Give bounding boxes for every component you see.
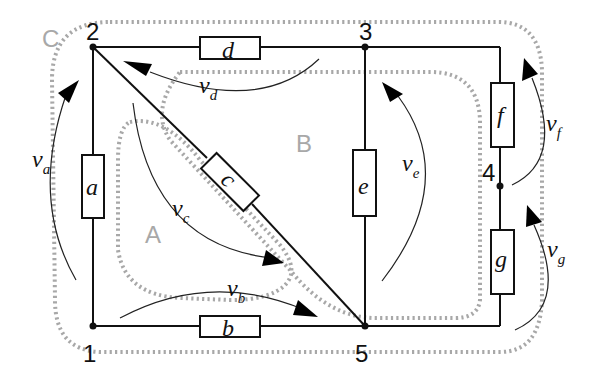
arrowhead-b-icon: [293, 300, 318, 317]
voltage-arrow-a: va: [32, 80, 79, 280]
voltage-arrow-e: ve: [382, 82, 425, 281]
loop-a-label: A: [145, 221, 161, 248]
node-1-label: 1: [83, 340, 96, 367]
arrowhead-f-icon: [522, 58, 538, 81]
voltage-g-symbol: v: [547, 236, 558, 262]
voltage-c-sub: c: [183, 210, 190, 226]
voltage-b-symbol: v: [227, 275, 238, 301]
node-1-dot: [90, 323, 97, 330]
node-4-dot: [497, 183, 504, 190]
node-3-label: 3: [359, 18, 372, 45]
loop-c-label: C: [42, 25, 59, 52]
voltage-d-symbol: v: [199, 72, 210, 98]
arrowhead-g-icon: [526, 205, 542, 227]
circuit-diagram: a b c d e f g 1 2 3 4 5 A B C va: [0, 0, 600, 389]
svg-text:va: va: [32, 146, 50, 177]
resistor-a-label: a: [86, 174, 98, 200]
voltage-e-symbol: v: [402, 150, 413, 176]
voltage-arrow-f: vf: [512, 58, 563, 185]
resistor-f: f: [491, 83, 514, 147]
resistor-b-label: b: [222, 315, 234, 341]
voltage-f-sub: f: [557, 125, 563, 141]
voltage-f-symbol: v: [546, 110, 557, 136]
voltage-c-symbol: v: [172, 195, 183, 221]
wires: [93, 47, 500, 326]
voltage-d-sub: d: [210, 87, 218, 103]
svg-text:vd: vd: [199, 72, 218, 103]
voltage-a-symbol: v: [32, 146, 43, 172]
node-5-dot: [362, 323, 369, 330]
loop-a-path: [118, 121, 291, 300]
node-4-label: 4: [482, 159, 495, 186]
voltage-e-sub: e: [413, 165, 420, 181]
svg-text:vf: vf: [546, 110, 563, 141]
voltage-g-sub: g: [558, 251, 566, 267]
resistor-g: g: [491, 230, 514, 294]
resistor-d: d: [200, 37, 260, 63]
resistor-e: e: [353, 150, 376, 216]
node-5-label: 5: [355, 340, 368, 367]
loop-c-path: [52, 22, 542, 352]
svg-text:vc: vc: [172, 195, 190, 226]
loop-b-path: [162, 72, 480, 318]
voltage-arrow-d: vd: [123, 59, 319, 103]
voltage-a-sub: a: [43, 161, 51, 177]
resistor-d-label: d: [222, 37, 235, 63]
voltage-arrow-b: vb: [120, 275, 318, 318]
resistor-e-label: e: [358, 173, 369, 199]
resistor-b: b: [200, 315, 260, 341]
arrowhead-d-icon: [123, 61, 152, 76]
voltage-b-sub: b: [238, 290, 246, 306]
svg-text:vg: vg: [547, 236, 566, 267]
resistor-a: a: [82, 155, 104, 218]
arrowhead-c-icon: [262, 250, 284, 266]
loop-b-label: B: [296, 130, 312, 157]
arrowhead-a-icon: [58, 80, 79, 103]
resistor-g-label: g: [495, 246, 507, 272]
node-2-label: 2: [86, 18, 99, 45]
svg-text:ve: ve: [402, 150, 420, 181]
